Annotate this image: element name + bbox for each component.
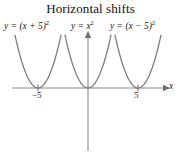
plot-area — [0, 0, 181, 168]
x-tick-label-pos5: 5 — [134, 90, 139, 100]
horizontal-shifts-figure: Horizontal shifts y = (x + 5)2 y = x2 y … — [0, 0, 181, 168]
parabola-shift-right — [115, 35, 161, 88]
x-tick-label-neg5: −5 — [32, 90, 42, 100]
parabola-shift-left — [15, 35, 61, 88]
y-axis-arrowhead — [85, 31, 91, 38]
x-axis-label: x — [169, 81, 173, 91]
